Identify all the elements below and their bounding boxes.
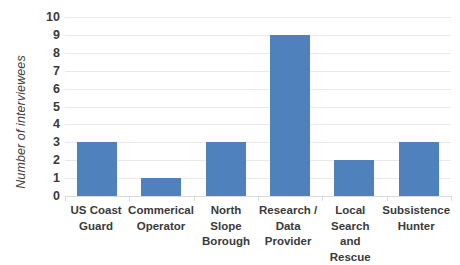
bar-series [65, 17, 451, 196]
y-axis-tick-labels: 109876543210 [24, 10, 60, 196]
bar-slot [65, 17, 129, 196]
y-axis-tick-label: 6 [24, 82, 60, 95]
plot-area [65, 17, 451, 196]
y-axis-tick-label: 1 [24, 172, 60, 185]
y-axis-tick-label: 5 [24, 100, 60, 113]
x-axis-category-label: North Slope Borough [195, 203, 257, 265]
x-axis-tick-mark [194, 196, 195, 201]
x-axis-tick-mark [65, 196, 66, 201]
bar-slot [258, 17, 322, 196]
y-axis-tick-label: 3 [24, 136, 60, 149]
bar[interactable] [77, 142, 117, 196]
bar[interactable] [334, 160, 374, 196]
x-axis-category-label: Subsistence Hunter [381, 203, 451, 265]
y-axis-tick-label: 2 [24, 154, 60, 167]
y-axis-tick-label: 4 [24, 118, 60, 131]
bar-slot [322, 17, 386, 196]
y-axis-tick-label: 7 [24, 64, 60, 77]
bar[interactable] [141, 178, 181, 196]
bar-chart: Number of interviewees 109876543210 US C… [0, 0, 460, 265]
bar[interactable] [270, 35, 310, 196]
bar[interactable] [399, 142, 439, 196]
bar-slot [194, 17, 258, 196]
x-axis-tick-mark [322, 196, 323, 201]
bar[interactable] [206, 142, 246, 196]
x-axis-category-labels: US Coast GuardCommerical OperatorNorth S… [65, 203, 451, 265]
x-axis-category-label: Local Search and Rescue [319, 203, 381, 265]
bar-slot [387, 17, 451, 196]
y-axis-tick-label: 8 [24, 47, 60, 60]
x-axis-tick-mark [258, 196, 259, 201]
x-axis-tick-marks [65, 196, 451, 201]
x-axis-tick-mark [451, 196, 452, 201]
y-axis-tick-label: 9 [24, 29, 60, 42]
x-axis-tick-mark [129, 196, 130, 201]
x-axis-tick-mark [387, 196, 388, 201]
x-axis-category-label: Commerical Operator [127, 203, 195, 265]
y-axis-tick-label: 10 [24, 11, 60, 24]
x-axis-category-label: US Coast Guard [65, 203, 127, 265]
x-axis-category-label: Research / Data Provider [257, 203, 319, 265]
y-axis-tick-label: 0 [24, 190, 60, 203]
bar-slot [129, 17, 193, 196]
